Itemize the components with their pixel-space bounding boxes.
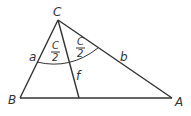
side-b-line	[58, 20, 172, 98]
vertex-label-c: C	[53, 5, 62, 19]
triangle-angle-bisector-diagram: C B A a b f C 2 C 2	[0, 0, 191, 116]
vertex-label-b: B	[8, 93, 16, 107]
half-angle-left-denominator: 2	[52, 52, 58, 63]
half-angle-left: C 2	[51, 40, 60, 63]
half-angle-left-numerator: C	[52, 40, 59, 51]
side-label-b: b	[120, 50, 128, 64]
side-label-a: a	[29, 50, 36, 64]
bisector-label-f: f	[76, 69, 82, 83]
half-angle-right-denominator: 2	[77, 48, 83, 59]
half-angle-right-numerator: C	[77, 36, 84, 47]
half-angle-right: C 2	[76, 36, 85, 59]
vertex-label-a: A	[174, 95, 183, 109]
